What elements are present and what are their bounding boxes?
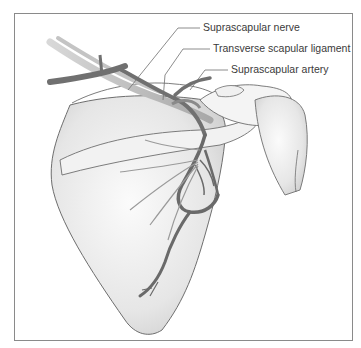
label-suprascapular-nerve: Suprascapular nerve (203, 21, 300, 33)
label-transverse-scapular-ligament: Transverse scapular ligament (213, 42, 350, 54)
humeral-head (255, 96, 307, 195)
label-suprascapular-artery: Suprascapular artery (231, 63, 328, 75)
